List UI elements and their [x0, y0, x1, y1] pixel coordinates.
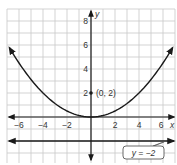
x-tick-label: −2 — [62, 120, 72, 130]
y-tick-label: 6 — [83, 40, 88, 50]
y-tick-label: 8 — [83, 16, 88, 26]
focus-point — [89, 91, 93, 95]
directrix-label: y = −2 — [131, 148, 156, 158]
x-axis-label: x — [169, 120, 175, 130]
x-tick-label: −6 — [14, 120, 24, 130]
parabola-graph: −6 −4 −2 2 4 6 2 4 6 8 x y (0, 2) y = −2 — [0, 0, 177, 165]
x-tick-label: 2 — [113, 120, 118, 130]
y-axis-label: y — [94, 9, 100, 19]
y-tick-label: 4 — [83, 64, 88, 74]
x-tick-label: −4 — [38, 120, 48, 130]
y-tick-label: 2 — [83, 88, 88, 98]
x-tick-label: 4 — [137, 120, 142, 130]
x-tick-label: 6 — [159, 120, 164, 130]
focus-label: (0, 2) — [96, 88, 116, 98]
